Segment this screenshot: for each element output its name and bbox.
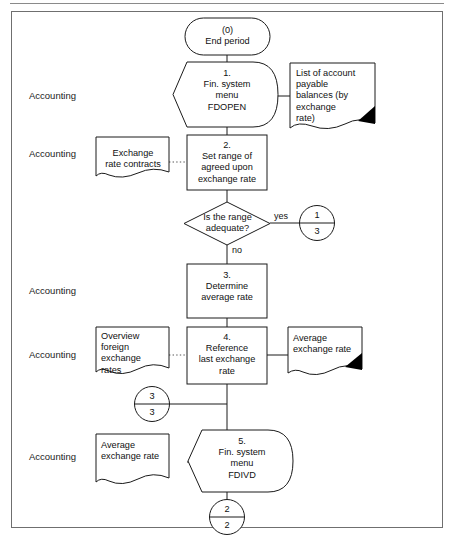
node-step3-process [187,264,267,318]
node-doc-overview [96,327,169,374]
lane-label-accounting-4: Accounting [29,349,76,360]
connector-mid-bottom-value: 3 [134,407,170,417]
node-doc-contracts [96,137,169,177]
node-step1-manual-operation [173,62,278,127]
dotted-association-lines [169,162,187,355]
node-step2-process [187,135,267,190]
lane-label-accounting-5: Accounting [29,451,76,462]
lane-label-accounting-3: Accounting [29,285,76,296]
node-decision-range-adequate [184,202,270,245]
flowchart-canvas [0,0,457,546]
lane-label-accounting-2: Accounting [29,148,76,159]
edge-label-yes: yes [274,211,288,221]
flowchart-page: Accounting Accounting Accounting Account… [0,0,457,546]
edge-label-no: no [232,245,242,255]
connector-mid-top-value: 3 [134,391,170,401]
connector-end-bottom-value: 2 [209,520,245,530]
node-step5-manual-operation [188,430,293,492]
node-step4-process [187,327,267,384]
node-doc-average-in [96,434,169,484]
lane-label-accounting-1: Accounting [29,90,76,101]
connector-yes-bottom-value: 3 [299,226,335,236]
connector-yes-top-value: 1 [299,210,335,220]
node-start-terminator [185,18,270,55]
connector-end-top-value: 2 [209,504,245,514]
